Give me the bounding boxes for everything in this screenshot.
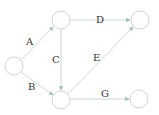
edge-label-b: B bbox=[28, 81, 35, 92]
edge-label-d: D bbox=[96, 14, 104, 25]
edge-label-a: A bbox=[25, 36, 34, 47]
graph-diagram: A B C D E G bbox=[0, 0, 159, 115]
edge-label-g: G bbox=[101, 88, 109, 99]
edge-label-c: C bbox=[52, 54, 60, 65]
node-5 bbox=[130, 90, 148, 108]
node-1 bbox=[5, 57, 23, 75]
node-3 bbox=[131, 11, 149, 29]
edge-label-e: E bbox=[93, 52, 100, 63]
edge-b bbox=[21, 72, 53, 95]
node-4 bbox=[52, 91, 70, 109]
edge-e bbox=[68, 27, 133, 94]
node-2 bbox=[52, 11, 70, 29]
